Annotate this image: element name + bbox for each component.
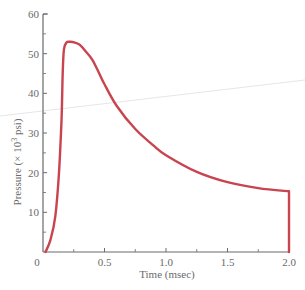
y-tick-label: 30 xyxy=(28,127,40,139)
origin-label: 0 xyxy=(34,256,40,268)
pressure-curve xyxy=(46,42,290,252)
x-axis-ticks: 0.51.01.52.0 xyxy=(74,248,297,268)
x-tick-label: 2.0 xyxy=(282,256,296,268)
axes xyxy=(43,14,290,252)
y-axis-label-tail: psi) xyxy=(11,118,24,138)
y-tick-label: 40 xyxy=(28,87,40,99)
y-tick-label: 50 xyxy=(28,48,40,60)
y-tick-label: 60 xyxy=(28,8,40,20)
y-axis-label: Pressure (× 103 psi) xyxy=(10,118,24,205)
x-tick-label: 1.5 xyxy=(221,256,235,268)
pressure-time-chart: 102030405060 0.51.01.52.0 0 Time (msec) … xyxy=(0,0,305,290)
x-axis-label: Time (msec) xyxy=(139,268,195,281)
y-axis-ticks: 102030405060 xyxy=(28,8,47,232)
x-tick-label: 0.5 xyxy=(98,256,112,268)
scan-artifact-line xyxy=(0,80,305,116)
y-axis-label-main: Pressure (× 10 xyxy=(11,141,24,205)
x-tick-label: 1.0 xyxy=(159,256,173,268)
y-tick-label: 20 xyxy=(28,167,40,179)
y-tick-label: 10 xyxy=(28,206,40,218)
